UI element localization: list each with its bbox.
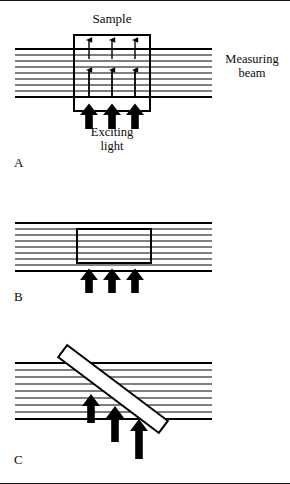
- panel-b: [15, 223, 212, 293]
- exciting-light-label: Exciting light: [46, 126, 178, 153]
- panel-label-c: C: [14, 453, 23, 467]
- measuring-beam-label: Measuring beam: [214, 53, 290, 80]
- sample-label: Sample: [0, 12, 224, 26]
- panel-label-b: B: [14, 290, 23, 304]
- emission-arrows-lower-a: [89, 70, 135, 96]
- measuring-beam-a: [15, 49, 212, 97]
- panel-a: [15, 35, 212, 129]
- exciting-light-arrows-b: [80, 269, 144, 294]
- sample-cuvette-b: [77, 229, 151, 263]
- panel-c: [15, 345, 212, 459]
- figure-frame: Sample Measuring beam Exciting light A B…: [0, 0, 290, 484]
- panel-label-a: A: [14, 156, 23, 170]
